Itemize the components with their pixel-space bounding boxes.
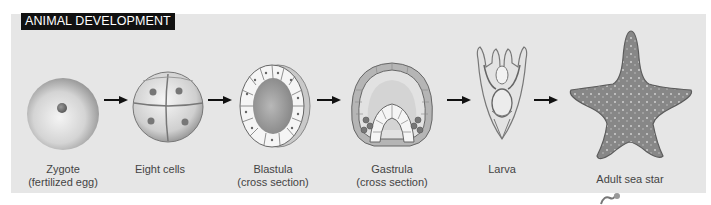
stage-zygote — [25, 76, 101, 152]
label-adult: Adult sea star — [596, 173, 663, 186]
blastula-icon — [236, 62, 312, 150]
decorative-fragment — [600, 192, 620, 205]
label-larva: Larva — [488, 163, 516, 176]
label-zygote: Zygote (fertilized egg) — [28, 163, 98, 189]
diagram-title: ANIMAL DEVELOPMENT — [21, 13, 175, 30]
sea-star-icon — [565, 28, 697, 162]
arrow-right-icon — [208, 95, 232, 105]
eight-cell-embryo-icon — [131, 69, 205, 143]
arrow-right-icon — [104, 95, 128, 105]
stage-gastrula — [346, 60, 438, 150]
decorative-squiggle-icon — [600, 192, 620, 205]
arrow-right-icon — [447, 95, 471, 105]
label-gastrula: Gastrula (cross section) — [356, 163, 428, 189]
stage-eight-cells — [131, 69, 205, 143]
stage-larva — [474, 45, 530, 143]
arrow-right-icon — [317, 95, 341, 105]
label-eight-cells: Eight cells — [135, 163, 185, 176]
arrow-right-icon — [534, 95, 558, 105]
label-blastula: Blastula (cross section) — [237, 163, 309, 189]
gastrula-icon — [346, 60, 438, 150]
zygote-icon — [25, 76, 101, 152]
stage-blastula — [236, 62, 312, 150]
larva-icon — [474, 45, 530, 143]
stage-adult — [565, 28, 697, 162]
